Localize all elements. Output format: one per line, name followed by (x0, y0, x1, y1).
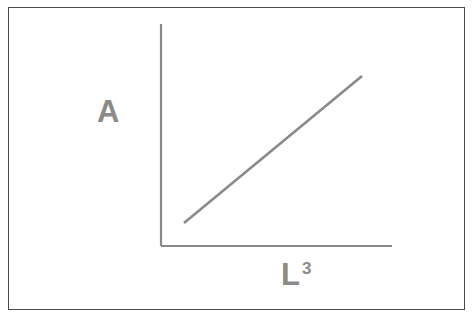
y-axis-label: A (97, 96, 119, 127)
x-axis-label-exponent: 3 (302, 259, 311, 278)
x-axis-label: L3 (281, 259, 311, 290)
data-line-series-1 (184, 76, 362, 223)
x-axis-label-base: L (281, 257, 300, 292)
plot-area: A L3 (9, 8, 464, 309)
chart-axes-and-data (9, 8, 464, 309)
figure-frame: A L3 (8, 7, 465, 310)
